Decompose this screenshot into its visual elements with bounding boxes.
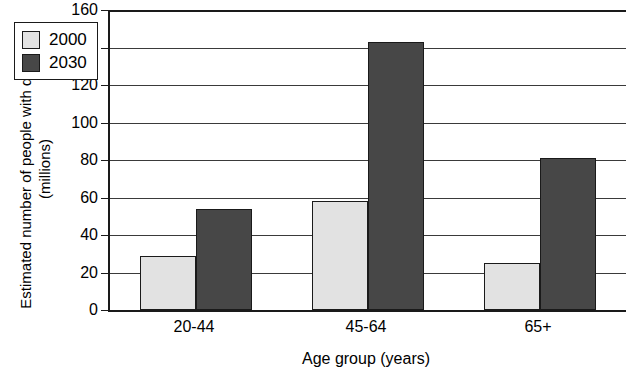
y-tick-label-80: 80 [52,152,98,168]
y-tick-mark-160 [101,10,110,11]
y-tick-label-0: 0 [52,302,98,318]
legend-swatch-2030-icon [22,54,40,72]
plot-area: 020406080100120140160 [108,10,626,312]
y-tick-mark-0 [101,310,110,311]
y-tick-mark-40 [101,235,110,236]
y-tick-mark-60 [101,198,110,199]
y-tick-label-100: 100 [52,115,98,131]
y-tick-mark-120 [101,85,110,86]
bar-2000-20-44 [140,256,196,310]
y-tick-label-40: 40 [52,227,98,243]
y-tick-mark-80 [101,160,110,161]
y-tick-label-160: 160 [52,2,98,18]
chart-title [190,0,530,3]
bar-2030-45-64 [368,42,424,310]
x-category-label-45-64: 45-64 [306,318,426,336]
y-tick-mark-140 [101,48,110,49]
bar-chart: Estimated number of people with diabetes… [0,0,632,381]
bar-2030-20-44 [196,209,252,310]
x-category-label-65+: 65+ [478,318,598,336]
legend-label-2000: 2000 [49,31,87,48]
bar-2000-45-64 [312,201,368,310]
bar-2000-65+ [484,263,540,310]
y-tick-label-20: 20 [52,265,98,281]
bars-group [110,10,626,310]
legend-swatch-2000-icon [22,31,40,49]
bar-2030-65+ [540,158,596,310]
legend-item-2030: 2030 [22,51,87,74]
y-tick-mark-20 [101,273,110,274]
x-axis-title: Age group (years) [108,350,624,368]
y-tick-mark-100 [101,123,110,124]
x-category-label-20-44: 20-44 [134,318,254,336]
legend-item-2000: 2000 [22,28,87,51]
legend-label-2030: 2030 [49,54,87,71]
legend: 2000 2030 [14,22,98,80]
y-tick-label-60: 60 [52,190,98,206]
